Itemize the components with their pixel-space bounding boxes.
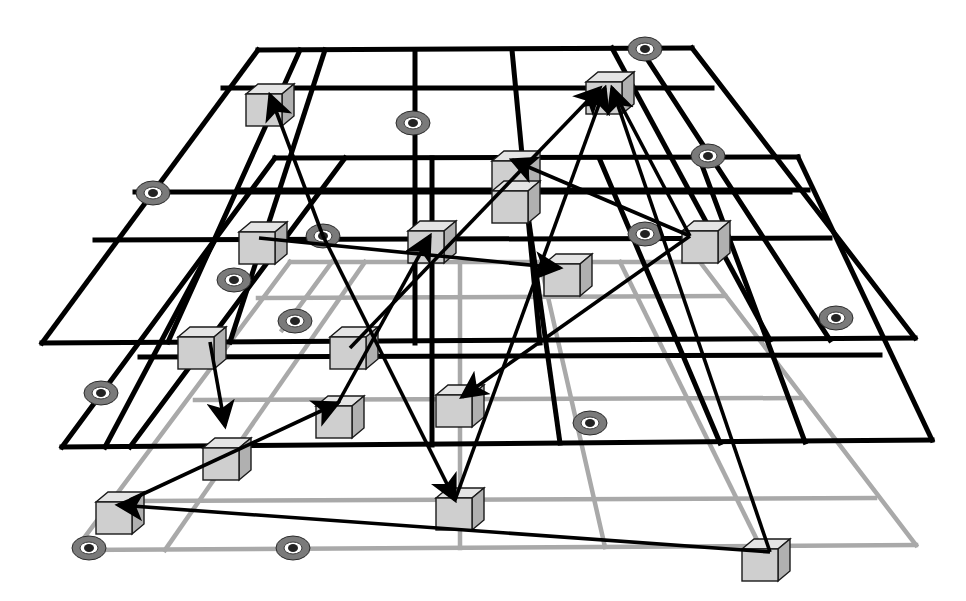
grid-border-line <box>62 440 932 447</box>
grid-line <box>258 296 725 298</box>
ring-marker-icon <box>136 181 170 205</box>
cube-node-n11 <box>436 385 484 427</box>
cube-node-n13 <box>203 438 251 480</box>
ring-marker-icon <box>628 222 662 246</box>
grid-border-line <box>42 338 915 343</box>
arrow-edge <box>130 403 338 500</box>
cube-node-n7 <box>682 221 730 263</box>
arrow-edge <box>350 88 600 348</box>
ring-marker-icon <box>396 111 430 135</box>
ring-marker-icon <box>819 306 853 330</box>
cube-node-n8 <box>544 254 592 296</box>
cube-node-n5 <box>239 222 287 264</box>
cube-node-n4 <box>492 181 540 223</box>
grid-line <box>140 498 875 501</box>
ring-marker-icon <box>628 37 662 61</box>
cube-node-n1 <box>246 84 294 126</box>
ring-marker-icon <box>84 381 118 405</box>
grid-line <box>620 262 760 546</box>
ring-marker-icon <box>573 411 607 435</box>
grid-line <box>140 355 880 357</box>
ring-marker-icon <box>72 536 106 560</box>
layered-grid-diagram <box>0 0 966 601</box>
cube-node-n15 <box>436 488 484 530</box>
grid-line <box>195 398 800 400</box>
cube-nodes <box>96 72 790 581</box>
arrow-edge <box>270 95 323 236</box>
grid-border-line <box>798 157 932 440</box>
ring-marker-icon <box>278 309 312 333</box>
cube-node-n9 <box>178 327 226 369</box>
ring-marker-icon <box>691 144 725 168</box>
ring-marker-icon <box>217 268 251 292</box>
ring-marker-icon <box>276 536 310 560</box>
